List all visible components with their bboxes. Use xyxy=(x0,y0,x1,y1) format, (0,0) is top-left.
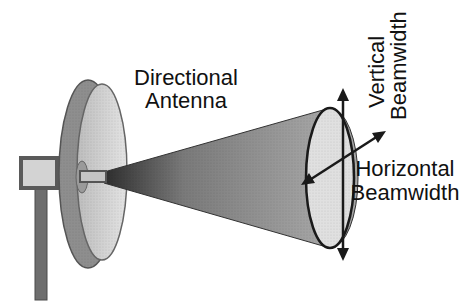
mount-pole xyxy=(35,188,47,300)
feed-arm xyxy=(80,171,106,182)
diagram-svg: Directional Antenna Vertical Beamwidth H… xyxy=(0,0,470,306)
directional-antenna-diagram: Directional Antenna Vertical Beamwidth H… xyxy=(0,0,470,306)
title-line-2: Antenna xyxy=(145,88,228,113)
beam-cone xyxy=(104,108,358,248)
title-line-1: Directional xyxy=(134,65,238,90)
horizontal-label-line-2: Beamwidth xyxy=(351,180,460,205)
mount-bracket xyxy=(21,158,57,188)
vertical-label-line-2: Beamwidth xyxy=(386,11,411,120)
horizontal-label-line-1: Horizontal xyxy=(355,156,454,181)
